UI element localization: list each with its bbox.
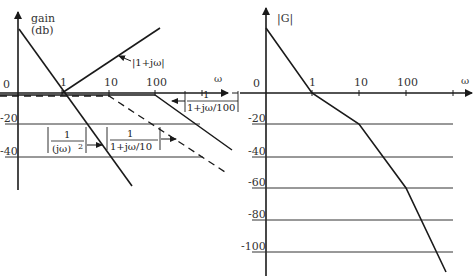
right-y-tick-0: 0: [253, 77, 260, 90]
right-bode-plot: |G| 0 -20 -40 -60 -80 -100 1 10 100 ω: [240, 8, 472, 276]
svg-text:1+jω/100: 1+jω/100: [187, 102, 235, 113]
composite-magnitude-curve: [266, 28, 446, 272]
left-x-label-omega: ω: [214, 73, 222, 84]
svg-text:1: 1: [64, 129, 70, 140]
svg-text:1: 1: [127, 128, 133, 139]
left-x-tick-100: 100: [146, 76, 167, 89]
svg-text:2: 2: [78, 142, 83, 151]
right-y-tick-minus20: -20: [248, 112, 266, 125]
right-x-tick-10: 10: [354, 76, 368, 89]
svg-text:1: 1: [203, 89, 209, 100]
svg-text:1+jω/10: 1+jω/10: [110, 141, 152, 152]
left-y-label-db: (db): [31, 24, 54, 37]
right-x-tick-1: 1: [309, 76, 316, 89]
left-y-tick-0: 0: [3, 78, 10, 91]
right-y-tick-minus60: -60: [248, 176, 266, 189]
left-y-tick-minus40: -40: [0, 145, 18, 158]
annotation-one-plus-jw: |1+jω|: [119, 56, 165, 69]
right-x-tick-100: 100: [397, 76, 418, 89]
right-y-tick-minus40: -40: [248, 145, 266, 158]
right-x-label-omega: ω: [461, 75, 469, 86]
bode-diagram: gain (db) 0 -20 -40 1 10 100 ω |1+jω| 1 …: [0, 0, 475, 277]
right-y-label: |G|: [277, 12, 293, 26]
svg-text:(jω): (jω): [52, 143, 71, 154]
left-x-tick-10: 10: [104, 76, 118, 89]
svg-text:|1+jω|: |1+jω|: [132, 57, 165, 69]
left-y-tick-minus20: -20: [0, 112, 18, 125]
left-bode-plot: gain (db) 0 -20 -40 1 10 100 ω |1+jω| 1 …: [0, 12, 238, 190]
right-y-tick-minus100: -100: [241, 240, 266, 253]
annotation-inv-one-plus-jw-over-10: 1 1+jω/10: [107, 127, 176, 152]
right-y-tick-minus80: -80: [248, 208, 266, 221]
curve-inv-jw-squared: [19, 29, 132, 186]
annotation-inv-jw-squared: 1 (jω) 2: [48, 127, 102, 154]
